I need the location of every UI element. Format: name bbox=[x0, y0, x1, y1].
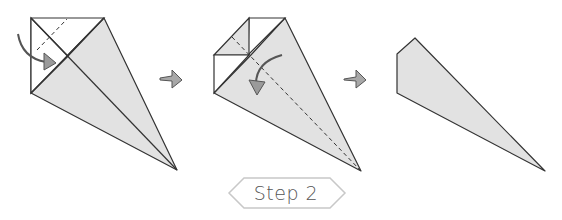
figure-3 bbox=[397, 38, 545, 171]
step-label: Step 2 bbox=[230, 176, 342, 210]
figure-1 bbox=[18, 18, 177, 170]
right-arrow-icon bbox=[344, 70, 366, 88]
figure-2 bbox=[214, 18, 361, 171]
fig3-result-shape bbox=[397, 38, 545, 171]
right-arrow-icon bbox=[160, 70, 182, 88]
